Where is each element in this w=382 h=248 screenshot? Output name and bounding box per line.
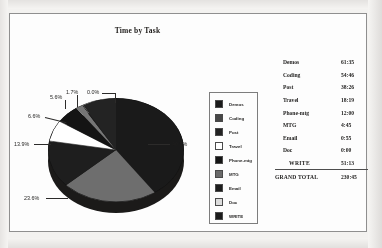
legend-label-travel: Travel	[229, 144, 242, 149]
legend-item[interactable]: Travel	[210, 139, 257, 153]
table-row: Phone-mtg 12:00	[275, 106, 370, 119]
legend-swatch-mtg	[215, 170, 223, 178]
pie-leader-left	[34, 144, 51, 145]
legend-item[interactable]: Coding	[210, 111, 257, 125]
table-cell-value: 4:45	[341, 122, 367, 128]
chart-frame: Time by Task	[9, 13, 367, 232]
table-cell-value: 18:19	[341, 97, 367, 103]
table-row: Email 0:55	[275, 132, 370, 145]
legend-item[interactable]: Doc	[210, 195, 257, 209]
legend-label-doc: Doc	[229, 200, 237, 205]
table-cell-value: 51:13	[341, 160, 367, 166]
pie-top-face	[48, 98, 184, 202]
pie-leader-bottom-left	[46, 198, 68, 199]
table-cell-value: 38:26	[341, 84, 367, 90]
legend-swatch-doc	[215, 198, 223, 206]
legend-label-post: Post	[229, 130, 239, 135]
legend-label-write: WRITE	[229, 214, 243, 219]
table-cell-label: GRAND TOTAL	[275, 174, 318, 180]
scan-edge-bottom	[0, 238, 382, 248]
table-cell-label: Phone-mtg	[283, 110, 309, 116]
pie-leader-top-mid	[77, 95, 78, 107]
table-row: Travel 18:19	[275, 94, 370, 107]
legend-label-coding: Coding	[229, 116, 244, 121]
page-title: Time by Task	[10, 26, 265, 35]
legend-label-email: Email	[229, 186, 241, 191]
pie-callout-top-left: 5.6%	[50, 94, 62, 100]
pie-chart: 40.3% 23.6% 13.9% 6.6% 5.6% 1.7% 0.0%	[24, 72, 199, 217]
legend-label-phone-mtg: Phone-mtg	[229, 158, 252, 163]
table-cell-label: Travel	[283, 97, 298, 103]
pie-callout-left: 13.9%	[14, 141, 29, 147]
legend-swatch-coding	[215, 114, 223, 122]
pie-callout-bottom-left: 23.6%	[24, 195, 39, 201]
legend-item[interactable]: Email	[210, 181, 257, 195]
legend-label-mtg: MTG	[229, 172, 239, 177]
legend-item[interactable]: Demos	[210, 97, 257, 111]
legend-swatch-demos	[215, 100, 223, 108]
legend-item[interactable]: Phone-mtg	[210, 153, 257, 167]
pie-leader-top-left	[65, 100, 66, 109]
time-by-task-table: Demos 61:35 Coding 54:46 Post 38:26 Trav…	[275, 56, 370, 183]
scan-edge-top	[0, 0, 382, 9]
legend-swatch-phone-mtg	[215, 156, 223, 164]
table-row: MTG 4:45	[275, 119, 370, 132]
table-cell-value: 230:45	[341, 174, 367, 180]
table-row: Coding 54:46	[275, 69, 370, 82]
table-cell-label: Demos	[283, 59, 299, 65]
table-cell-value: 61:35	[341, 59, 367, 65]
table-row: Post 38:26	[275, 81, 370, 94]
legend-item[interactable]: MTG	[210, 167, 257, 181]
chart-legend: Demos Coding Post Travel Phone-mtg MTG E…	[209, 92, 258, 224]
table-cell-label: Doc	[283, 147, 292, 153]
legend-swatch-post	[215, 128, 223, 136]
legend-label-demos: Demos	[229, 102, 244, 107]
legend-item[interactable]: WRITE	[210, 209, 257, 223]
table-cell-label: Email	[283, 135, 297, 141]
table-cell-value: 0:00	[341, 147, 367, 153]
pie-graphic	[48, 98, 184, 202]
pie-leader-top-right-v	[115, 93, 116, 103]
table-row-grand-total: GRAND TOTAL 230:45	[275, 169, 370, 183]
pie-callout-top-right: 0.0%	[87, 89, 99, 95]
scan-edge-left	[0, 0, 8, 248]
table-row: Demos 61:35	[275, 56, 370, 69]
pie-callout-upper-left: 6.6%	[28, 113, 40, 119]
pie-leader-top-right-h	[102, 93, 116, 94]
legend-swatch-email	[215, 184, 223, 192]
table-cell-label: Post	[283, 84, 293, 90]
legend-swatch-write	[215, 212, 223, 220]
table-cell-label: Coding	[283, 72, 300, 78]
pie-callout-right: 40.3%	[172, 141, 187, 147]
legend-item[interactable]: Post	[210, 125, 257, 139]
table-row-write: WRITE 51:13	[275, 157, 370, 170]
table-row: Doc 0:00	[275, 144, 370, 157]
table-cell-value: 12:00	[341, 110, 367, 116]
table-cell-value: 54:46	[341, 72, 367, 78]
table-cell-label: MTG	[283, 122, 296, 128]
pie-slices-svg	[48, 98, 184, 202]
pie-leader-right	[148, 144, 170, 145]
table-cell-label: WRITE	[283, 160, 310, 166]
scan-edge-right	[368, 0, 382, 248]
legend-swatch-travel	[215, 142, 223, 150]
table-cell-value: 0:55	[341, 135, 367, 141]
